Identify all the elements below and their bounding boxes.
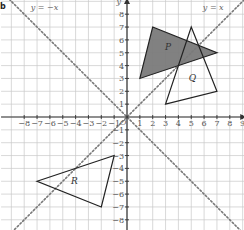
y-axis-arrow-icon bbox=[124, 0, 130, 4]
y-tick-label: −8 bbox=[112, 216, 124, 225]
x-tick-label: 3 bbox=[163, 119, 168, 128]
x-tick-label: −7 bbox=[31, 119, 43, 128]
y-tick-label: 1 bbox=[119, 100, 124, 109]
y-tick-label: 8 bbox=[119, 10, 124, 19]
y-tick-label: −5 bbox=[112, 177, 124, 186]
x-tick-label: 4 bbox=[176, 119, 181, 128]
coordinate-plane: −8−7−6−5−4−3−2−112345678987654321−1−2−3−… bbox=[0, 0, 244, 230]
y-tick-label: −6 bbox=[112, 190, 124, 199]
x-tick-label: −4 bbox=[70, 119, 82, 128]
x-tick-label: 5 bbox=[189, 119, 194, 128]
y-tick-label: −2 bbox=[112, 139, 124, 148]
y-tick-label: −3 bbox=[112, 152, 124, 161]
y-tick-label: 5 bbox=[119, 49, 124, 58]
x-tick-label: 1 bbox=[137, 119, 142, 128]
y-tick-label: −7 bbox=[112, 203, 124, 212]
x-tick-label: −5 bbox=[57, 119, 69, 128]
y-tick-label: 2 bbox=[119, 87, 124, 96]
x-tick-label: −6 bbox=[44, 119, 56, 128]
x-tick-label: 2 bbox=[150, 119, 155, 128]
origin-label: O bbox=[120, 118, 127, 127]
triangle-label-p: P bbox=[164, 42, 172, 52]
y-tick-label: 4 bbox=[119, 62, 124, 71]
triangle-label-q: Q bbox=[189, 73, 197, 83]
x-tick-label: 9 bbox=[240, 119, 244, 128]
y-tick-label: 3 bbox=[119, 74, 124, 83]
x-tick-label: −8 bbox=[18, 119, 30, 128]
y-axis-label: y bbox=[115, 0, 121, 6]
label-y-equals-x: y = x bbox=[202, 3, 224, 12]
y-tick-label: 7 bbox=[119, 23, 124, 32]
y-tick-label: −4 bbox=[112, 164, 124, 173]
x-tick-label: −2 bbox=[95, 119, 107, 128]
x-tick-label: −3 bbox=[83, 119, 95, 128]
x-tick-label: 8 bbox=[227, 119, 232, 128]
y-tick-label: 6 bbox=[119, 36, 124, 45]
triangle-label-r: R bbox=[70, 176, 78, 186]
y-tick-label: −1 bbox=[112, 126, 124, 135]
x-tick-label: 6 bbox=[202, 119, 207, 128]
label-y-equals-minus-x: y = −x bbox=[30, 3, 59, 12]
x-tick-label: 7 bbox=[214, 119, 219, 128]
